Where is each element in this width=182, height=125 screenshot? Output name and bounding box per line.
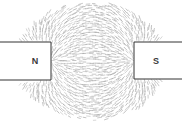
iron-filing	[115, 100, 118, 102]
iron-filing	[107, 49, 110, 50]
iron-filing	[64, 92, 67, 95]
iron-filing	[52, 89, 53, 92]
iron-filing	[115, 71, 119, 72]
iron-filing	[77, 32, 82, 34]
iron-filing	[107, 68, 112, 69]
iron-filing	[154, 82, 156, 86]
iron-filing	[76, 23, 79, 24]
iron-filing	[63, 97, 66, 100]
iron-filing	[109, 89, 112, 91]
iron-filing	[60, 29, 62, 31]
iron-filing	[121, 82, 124, 85]
iron-filing	[70, 83, 74, 85]
iron-filing	[73, 69, 76, 70]
iron-filing	[120, 65, 124, 66]
iron-filing	[97, 114, 101, 115]
iron-filing	[79, 102, 82, 103]
north-pole-magnet: N	[0, 42, 51, 80]
iron-filing	[100, 75, 105, 76]
iron-filing	[73, 98, 76, 100]
iron-filing	[109, 42, 112, 43]
iron-filing	[33, 28, 34, 32]
iron-filing	[96, 116, 100, 117]
iron-filing	[79, 87, 84, 88]
iron-filing	[111, 54, 116, 55]
iron-filing	[121, 22, 124, 25]
iron-filing	[37, 84, 38, 89]
iron-filing	[32, 36, 34, 39]
iron-filing	[54, 108, 56, 111]
iron-filing	[121, 38, 124, 41]
iron-filing	[36, 28, 37, 33]
iron-filing	[147, 81, 148, 85]
iron-filing	[138, 18, 139, 22]
iron-filing	[98, 21, 102, 22]
iron-filing	[138, 89, 139, 93]
iron-filing	[55, 104, 57, 107]
iron-filing	[106, 39, 110, 40]
iron-filing	[152, 83, 154, 86]
iron-filing	[132, 107, 134, 110]
iron-filing	[136, 106, 138, 110]
iron-filing	[109, 3, 113, 5]
iron-filing	[75, 104, 80, 106]
iron-filing	[60, 76, 62, 78]
iron-filing	[86, 111, 91, 112]
iron-filing	[76, 11, 79, 12]
iron-filing	[66, 35, 70, 38]
iron-filing	[52, 40, 53, 44]
iron-filing	[132, 43, 133, 48]
iron-filing	[73, 9, 77, 11]
iron-filing	[148, 37, 149, 41]
iron-filing	[119, 27, 122, 29]
iron-filing	[83, 20, 87, 21]
iron-filing	[134, 100, 136, 104]
iron-filing	[156, 79, 159, 83]
iron-filing	[80, 41, 83, 42]
iron-filing	[83, 99, 86, 100]
iron-filing	[75, 51, 80, 52]
iron-filing	[100, 44, 104, 45]
iron-filing	[96, 17, 101, 18]
iron-filing	[144, 99, 145, 104]
iron-filing	[95, 104, 100, 105]
iron-filing	[78, 39, 82, 40]
iron-filing	[69, 38, 72, 40]
iron-filing	[121, 20, 123, 22]
iron-filing	[107, 18, 111, 20]
iron-filing	[101, 86, 106, 87]
iron-filing	[121, 32, 124, 35]
iron-filing	[101, 115, 106, 116]
iron-filing	[131, 97, 133, 100]
iron-filing	[104, 67, 109, 68]
iron-filing	[29, 83, 31, 86]
iron-filing	[83, 35, 88, 36]
iron-filing	[99, 36, 103, 37]
iron-filing	[100, 14, 104, 15]
iron-filing	[104, 87, 107, 88]
iron-filing	[60, 40, 63, 43]
iron-filing	[119, 14, 123, 17]
iron-filing	[110, 100, 114, 102]
iron-filing	[138, 99, 139, 103]
iron-filing	[97, 78, 101, 79]
iron-filing	[72, 81, 76, 83]
iron-filing	[82, 33, 86, 34]
iron-filing	[67, 49, 71, 51]
iron-filing	[139, 15, 140, 19]
iron-filing	[77, 9, 81, 10]
iron-filing	[64, 41, 67, 43]
iron-filing	[73, 26, 77, 28]
iron-filing	[97, 24, 102, 25]
iron-filing	[121, 35, 124, 39]
iron-filing	[105, 27, 110, 29]
iron-filing	[66, 107, 69, 109]
iron-filing	[132, 76, 133, 80]
magnetic-field-diagram: N S	[0, 0, 182, 125]
iron-filing	[74, 45, 78, 46]
iron-filing	[55, 71, 57, 74]
iron-filing	[70, 95, 73, 97]
iron-filing	[98, 96, 101, 97]
iron-filing	[138, 25, 139, 29]
iron-filing	[85, 24, 89, 25]
